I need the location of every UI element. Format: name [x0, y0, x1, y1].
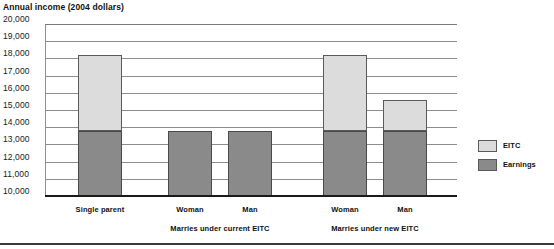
- y-axis-tick-label: 15,000: [3, 100, 45, 110]
- y-axis-tick-label: 14,000: [3, 117, 45, 127]
- bar-segment-earnings: [168, 131, 212, 196]
- y-axis-tick-label: 10,000: [3, 186, 45, 196]
- bar-segment-earnings: [383, 131, 427, 196]
- y-axis-tick-label: 17,000: [3, 66, 45, 76]
- bar: [323, 55, 367, 196]
- bar: [78, 55, 122, 196]
- y-axis-tick-label: 18,000: [3, 48, 45, 58]
- bar: [228, 131, 272, 196]
- chart-container: Annual income (2004 dollars) 20,00019,00…: [0, 0, 554, 249]
- x-axis-label: Man: [200, 205, 300, 214]
- legend-label: EITC: [503, 141, 520, 150]
- y-axis-tick-label: 19,000: [3, 31, 45, 41]
- y-axis-tick-label: 11,000: [3, 169, 45, 179]
- bar: [383, 100, 427, 196]
- x-axis-label: Man: [355, 205, 455, 214]
- x-axis-group-label: Marries under current EITC: [130, 224, 310, 233]
- bar-segment-eitc: [383, 100, 427, 131]
- x-axis-label: Single parent: [50, 205, 150, 214]
- bar-segment-eitc: [78, 55, 122, 131]
- x-axis-group-label: Marries under new EITC: [285, 224, 465, 233]
- bar-segment-eitc: [323, 55, 367, 131]
- bar-segment-earnings: [323, 131, 367, 196]
- y-axis-tick-label: 12,000: [3, 152, 45, 162]
- legend-item: Earnings: [478, 157, 554, 176]
- legend-swatch: [478, 159, 497, 171]
- legend-label: Earnings: [503, 160, 536, 169]
- x-axis-line: [45, 195, 457, 197]
- bar-segment-earnings: [228, 131, 272, 196]
- bar-segment-earnings: [78, 131, 122, 196]
- plot-area: [45, 24, 457, 196]
- gridline: [45, 24, 457, 25]
- chart-legend: EITCEarnings: [478, 138, 554, 176]
- y-axis-tick-label: 20,000: [3, 14, 45, 24]
- y-axis-tick-labels: 20,00019,00018,00017,00016,00015,00014,0…: [2, 0, 45, 249]
- legend-item: EITC: [478, 138, 554, 157]
- legend-swatch: [478, 140, 497, 152]
- footer-divider: [0, 243, 554, 245]
- y-axis-tick-label: 13,000: [3, 134, 45, 144]
- gridline: [45, 41, 457, 42]
- y-axis-tick-label: 16,000: [3, 83, 45, 93]
- bar: [168, 131, 212, 196]
